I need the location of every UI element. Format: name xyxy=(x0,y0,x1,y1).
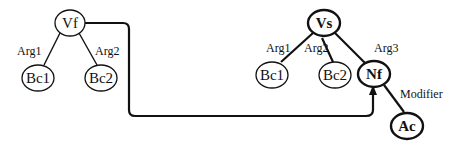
node-vf: Vf xyxy=(55,10,85,36)
node-vs: Vs xyxy=(308,10,340,36)
edge-label-modifier: Modifier xyxy=(400,87,443,101)
node-bc1-left-label: Bc1 xyxy=(26,70,50,86)
edge-vs-nf xyxy=(334,32,365,63)
diagram-canvas: Vf Bc1 Bc2 Arg1 Arg2 Vs Bc1 Bc2 Nf Ac Ar… xyxy=(0,0,456,146)
edge-label-arg1-left: Arg1 xyxy=(17,44,41,58)
edge-label-arg1-right: Arg1 xyxy=(266,41,290,55)
node-vs-label: Vs xyxy=(316,15,333,31)
edge-label-arg2-left: Arg2 xyxy=(95,44,119,58)
edge-label-arg3: Arg3 xyxy=(374,41,398,55)
node-ac-label: Ac xyxy=(398,118,416,134)
edge-vf-bc1 xyxy=(44,33,60,65)
node-ac: Ac xyxy=(391,113,423,139)
node-bc1-left: Bc1 xyxy=(22,65,54,91)
edge-label-arg2-right: Arg2 xyxy=(304,41,328,55)
node-bc2-right-label: Bc2 xyxy=(323,67,347,83)
node-bc1-right-label: Bc1 xyxy=(260,67,284,83)
node-nf: Nf xyxy=(358,61,390,87)
node-bc2-left: Bc2 xyxy=(85,65,117,91)
node-bc1-right: Bc1 xyxy=(256,62,288,88)
node-bc2-right: Bc2 xyxy=(319,62,351,88)
node-bc2-left-label: Bc2 xyxy=(89,70,113,86)
node-nf-label: Nf xyxy=(366,66,383,82)
node-vf-label: Vf xyxy=(62,15,78,31)
